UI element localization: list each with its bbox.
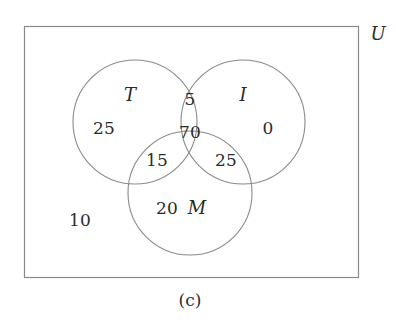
universe-label: U xyxy=(370,25,385,43)
figure-canvas: U T I M 25 5 0 70 15 25 20 10 (c) xyxy=(0,0,396,322)
universe-rectangle xyxy=(25,27,359,278)
region-value-t-and-i-only: 5 xyxy=(184,91,195,108)
region-value-all-three: 70 xyxy=(179,124,201,141)
region-value-t-only: 25 xyxy=(93,120,115,137)
set-label-i: I xyxy=(239,86,246,104)
venn-diagram-graphic xyxy=(0,0,396,322)
region-value-outside: 10 xyxy=(69,212,91,229)
region-value-i-and-m-only: 25 xyxy=(215,152,237,169)
region-value-m-only: 20 xyxy=(156,200,178,217)
region-value-t-and-m-only: 15 xyxy=(146,152,168,169)
set-label-m: M xyxy=(188,199,206,217)
region-value-i-only: 0 xyxy=(262,120,273,137)
set-label-t: T xyxy=(124,86,136,104)
figure-caption: (c) xyxy=(179,292,202,309)
